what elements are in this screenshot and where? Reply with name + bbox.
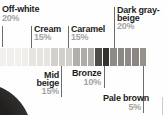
label-bronze-pct: 10% — [61, 78, 101, 86]
swatch-mid-beige — [51, 48, 57, 66]
swatch-off-white — [22, 48, 28, 66]
swatch-off-white — [7, 48, 13, 66]
swatch-bronze — [103, 48, 109, 66]
label-off-white-name: Off-white — [2, 5, 39, 13]
swatch-mid-beige — [59, 48, 65, 66]
label-dark-gray-beige-pct: 20% — [117, 22, 134, 30]
swatch-dark-gray-beige — [132, 48, 138, 66]
swatch-cream — [44, 48, 50, 66]
label-cream-pct: 15% — [34, 33, 51, 41]
swatch-dark-gray-beige — [125, 48, 131, 66]
callout-line-off-white — [2, 26, 3, 47]
callout-line-caramel — [68, 26, 69, 48]
callout-line-dark-gray-beige — [114, 7, 115, 48]
swatch-pale-brown — [140, 48, 146, 66]
swatch-off-white — [15, 48, 21, 66]
swatch-caramel — [81, 48, 87, 66]
callout-line-cream — [31, 26, 32, 48]
swatch-cream — [37, 48, 43, 66]
swatch-off-white — [0, 48, 6, 66]
swatch-cream — [29, 48, 35, 66]
label-mid-beige-pct: 15% — [20, 87, 59, 95]
swatch-mid-beige — [66, 48, 72, 66]
swatch-caramel — [88, 48, 94, 66]
callout-line-bronze — [104, 66, 105, 88]
label-caramel-pct: 15% — [71, 33, 88, 41]
label-bronze-name: Bronze — [72, 69, 101, 77]
label-off-white-pct: 20% — [2, 14, 19, 22]
swatch-dark-gray-beige — [118, 48, 124, 66]
palette-infographic: Off-white 20% Cream 15% Caramel 15% Dark… — [0, 0, 165, 115]
label-pale-brown-name: Pale brown — [103, 94, 149, 102]
swatch-dark-gray-beige — [110, 48, 116, 66]
swatch-bronze — [95, 48, 101, 66]
edge-line — [162, 97, 163, 115]
label-pale-brown-pct: 5% — [101, 103, 141, 111]
swatch-caramel — [73, 48, 79, 66]
color-swatch-strip — [0, 48, 146, 66]
callout-line-pale-brown — [143, 66, 144, 113]
